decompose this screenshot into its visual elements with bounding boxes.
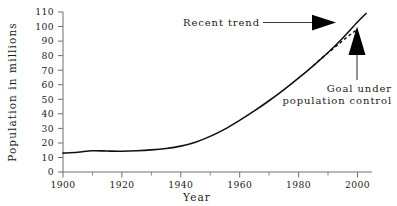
x-tick-label: 1920 — [109, 179, 134, 190]
y-tick-label: 100 — [35, 21, 54, 32]
x-tick-labels: 1900 1920 1940 1960 1980 2000 — [51, 179, 370, 190]
recent-trend-label: Recent trend — [183, 17, 260, 28]
arrow-right-icon — [312, 15, 336, 31]
y-tick-label: 60 — [42, 79, 55, 90]
goal-label-line2: population control — [282, 95, 392, 106]
x-axis-title: Year — [182, 191, 211, 203]
y-tick-label: 110 — [35, 6, 54, 17]
y-tick-label: 70 — [42, 65, 55, 76]
population-chart: 0 10 20 30 40 50 60 70 80 90 100 110 — [0, 0, 397, 206]
x-tick-label: 2000 — [345, 179, 370, 190]
y-tick-label: 50 — [42, 94, 55, 105]
annotation-recent-trend: Recent trend — [183, 15, 336, 31]
y-tick-label: 80 — [42, 50, 55, 61]
y-tick-label: 20 — [42, 137, 55, 148]
y-axis-ticks — [58, 12, 63, 172]
chart-canvas: 0 10 20 30 40 50 60 70 80 90 100 110 — [0, 0, 397, 206]
y-tick-label: 10 — [42, 152, 55, 163]
y-tick-label: 30 — [42, 123, 55, 134]
x-tick-label: 1960 — [227, 179, 252, 190]
goal-label-line1: Goal under — [327, 83, 392, 94]
y-tick-label: 0 — [48, 166, 54, 177]
y-tick-label: 90 — [42, 35, 55, 46]
x-tick-label: 1900 — [51, 179, 76, 190]
series-recent-trend — [63, 13, 366, 153]
y-tick-label: 40 — [42, 108, 55, 119]
series-goal-under-population-control — [313, 29, 357, 65]
y-tick-labels: 0 10 20 30 40 50 60 70 80 90 100 110 — [35, 6, 54, 177]
annotation-goal-under-population-control: Goal under population control — [282, 27, 392, 107]
y-axis-title: Population in millions — [6, 22, 18, 162]
x-tick-label: 1940 — [168, 179, 193, 190]
x-axis-ticks-minor — [93, 172, 329, 176]
x-tick-label: 1980 — [286, 179, 311, 190]
arrow-up-icon — [349, 27, 366, 56]
